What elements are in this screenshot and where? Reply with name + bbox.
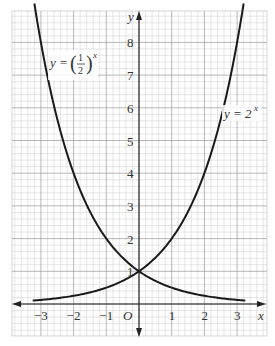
y-axis-up-arrow-icon xyxy=(136,11,142,20)
curve-half-power-x xyxy=(34,4,245,301)
label-half-exp: x xyxy=(92,50,97,60)
curve-two-power-x xyxy=(33,4,244,301)
x-tick-label: 1 xyxy=(169,308,176,323)
label-two-power-x: y = 2 x xyxy=(222,103,262,121)
y-tick-label: 7 xyxy=(127,68,134,83)
close-paren-icon: ) xyxy=(86,52,93,75)
label-half-num: 1 xyxy=(78,52,83,63)
y-tick-label: 3 xyxy=(127,199,134,214)
x-tick-label: 2 xyxy=(201,308,208,323)
y-tick-label: 4 xyxy=(127,166,134,181)
label-two-exp: x xyxy=(253,103,258,113)
y-tick-label: 6 xyxy=(127,101,134,116)
y-tick-label: 2 xyxy=(127,232,134,247)
y-axis xyxy=(136,11,142,337)
x-tick-label: −3 xyxy=(34,308,48,323)
label-half-lhs: y = xyxy=(48,55,68,70)
label-two-lhs: y = 2 xyxy=(222,106,252,121)
x-tick-label: 3 xyxy=(234,308,241,323)
x-tick-label: −2 xyxy=(67,308,81,323)
label-half-power-x: y = ( 1 2 ) x xyxy=(48,50,98,80)
y-tick-label: 1 xyxy=(127,264,134,279)
y-tick-labels: 12345678 xyxy=(127,35,134,279)
x-axis-left-arrow-icon xyxy=(12,301,21,307)
y-tick-label: 8 xyxy=(127,35,134,50)
y-axis-label: y xyxy=(126,9,134,24)
origin-label: O xyxy=(123,308,133,323)
label-half-den: 2 xyxy=(78,65,83,76)
y-tick-label: 5 xyxy=(127,134,134,149)
x-axis-right-arrow-icon xyxy=(257,301,266,307)
y-axis-down-arrow-icon xyxy=(136,328,142,337)
x-tick-labels: −3−2−1123 xyxy=(34,308,241,323)
graph-figure: −3−2−1123 12345678 x y O y = ( 1 2 ) x y… xyxy=(0,0,275,346)
x-axis-label: x xyxy=(257,308,264,323)
x-tick-label: −1 xyxy=(99,308,113,323)
open-paren-icon: ( xyxy=(70,52,77,75)
